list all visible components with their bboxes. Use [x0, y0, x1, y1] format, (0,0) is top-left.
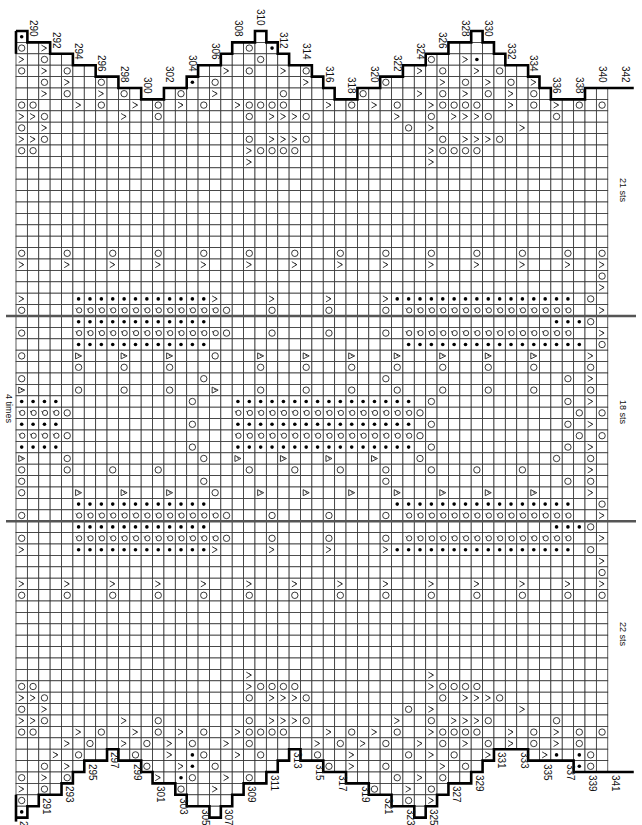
bottom-column-label: 289 — [18, 821, 28, 825]
top-column-label: 328 — [460, 20, 470, 37]
bottom-column-label: 299 — [132, 764, 142, 781]
bullet-icon — [430, 502, 434, 506]
bottom-column-label: 291 — [41, 798, 51, 815]
bullet-icon — [578, 765, 582, 769]
top-column-label: 322 — [392, 55, 402, 72]
bullet-icon — [361, 423, 365, 427]
bullet-icon — [543, 297, 547, 301]
bottom-column-label: 313 — [292, 752, 302, 769]
bottom-column-label: 309 — [246, 786, 256, 803]
bullet-icon — [350, 423, 354, 427]
bullet-icon — [134, 525, 138, 529]
bullet-icon — [350, 445, 354, 449]
bullet-icon — [111, 343, 115, 347]
bullet-icon — [555, 548, 559, 552]
bullet-icon — [407, 297, 411, 301]
bullet-icon — [498, 548, 502, 552]
bullet-icon — [418, 548, 422, 552]
top-column-label: 300 — [142, 77, 152, 94]
bullet-icon — [475, 548, 479, 552]
bullet-icon — [20, 400, 24, 404]
top-column-label: 342 — [620, 66, 630, 83]
bullet-icon — [54, 400, 58, 404]
top-column-label: 298 — [119, 66, 129, 83]
bullet-icon — [373, 445, 377, 449]
bottom-column-label: 331 — [496, 752, 506, 769]
bullet-icon — [100, 320, 104, 324]
bottom-column-label: 325 — [428, 809, 438, 825]
bullet-icon — [191, 343, 195, 347]
bullet-icon — [532, 502, 536, 506]
bullet-icon — [236, 423, 240, 427]
top-column-label: 316 — [324, 66, 334, 83]
bottom-column-label: 315 — [314, 764, 324, 781]
bullet-icon — [441, 343, 445, 347]
bullet-icon — [407, 400, 411, 404]
grid-cells — [16, 31, 608, 818]
bullet-icon — [122, 525, 126, 529]
top-column-label: 330 — [483, 20, 493, 37]
bullet-icon — [293, 423, 297, 427]
bullet-icon — [475, 58, 479, 62]
bottom-column-label: 311 — [269, 775, 279, 791]
bottom-column-label: 303 — [178, 798, 188, 815]
bullet-icon — [532, 297, 536, 301]
bullet-icon — [20, 445, 24, 449]
bullet-icon — [168, 320, 172, 324]
bullet-icon — [543, 548, 547, 552]
bullet-icon — [441, 502, 445, 506]
bullet-icon — [145, 320, 149, 324]
bullet-icon — [179, 525, 183, 529]
bullet-icon — [179, 548, 183, 552]
bottom-column-label: 317 — [337, 775, 347, 792]
bullet-icon — [566, 502, 570, 506]
bullet-icon — [270, 445, 274, 449]
bullet-icon — [555, 525, 559, 529]
bullet-icon — [122, 320, 126, 324]
bullet-icon — [498, 502, 502, 506]
bottom-column-label: 323 — [405, 809, 415, 825]
bullet-icon — [475, 297, 479, 301]
bullet-icon — [156, 525, 160, 529]
bullet-icon — [395, 297, 399, 301]
bullet-icon — [384, 423, 388, 427]
top-column-label: 314 — [301, 43, 311, 60]
bullet-icon — [31, 423, 35, 427]
bullet-icon — [282, 445, 286, 449]
bullet-icon — [555, 343, 559, 347]
bullet-icon — [498, 343, 502, 347]
bullet-icon — [168, 525, 172, 529]
bullet-icon — [20, 423, 24, 427]
bullet-icon — [407, 502, 411, 506]
bullet-icon — [532, 343, 536, 347]
bullet-icon — [88, 343, 92, 347]
bullet-icon — [88, 297, 92, 301]
bullet-icon — [179, 502, 183, 506]
bullet-icon — [293, 400, 297, 404]
side-label-repeat: 4 times — [4, 394, 14, 423]
bullet-icon — [555, 320, 559, 324]
bullet-icon — [156, 297, 160, 301]
top-column-label: 336 — [551, 77, 561, 94]
bullet-icon — [339, 400, 343, 404]
bullet-icon — [88, 502, 92, 506]
bullet-icon — [521, 343, 525, 347]
top-column-label: 334 — [528, 55, 538, 72]
top-column-label: 326 — [437, 32, 447, 49]
bullet-icon — [555, 753, 559, 757]
bullet-icon — [202, 320, 206, 324]
side-label-right-top: 21 sts — [618, 178, 628, 202]
bullet-icon — [464, 548, 468, 552]
bullet-icon — [134, 297, 138, 301]
bullet-icon — [441, 297, 445, 301]
bullet-icon — [191, 765, 195, 769]
bullet-icon — [191, 548, 195, 552]
bullet-icon — [122, 502, 126, 506]
bullet-icon — [282, 400, 286, 404]
bullet-icon — [395, 502, 399, 506]
bullet-icon — [168, 502, 172, 506]
bottom-column-label: 301 — [155, 786, 165, 803]
bullet-icon — [156, 320, 160, 324]
bullet-icon — [77, 343, 81, 347]
bullet-icon — [543, 502, 547, 506]
